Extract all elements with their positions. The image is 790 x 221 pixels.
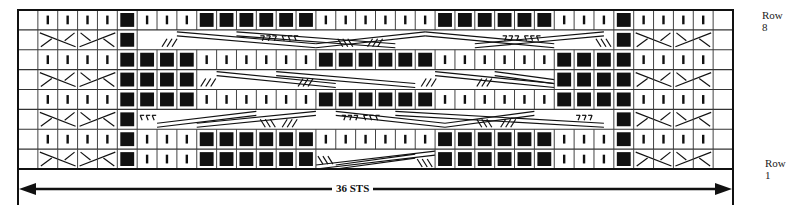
- knit-bar-icon: [642, 135, 644, 144]
- purl-square-icon: [557, 73, 571, 87]
- cell-r1-c14: [279, 152, 293, 166]
- cell-r6-c16: [319, 53, 333, 67]
- cell-r6-c32: [642, 55, 644, 64]
- purl-square-icon: [617, 13, 631, 27]
- purl-square-icon: [120, 132, 134, 146]
- purl-square-icon: [120, 13, 134, 27]
- stitch-count-label: 36 STS: [332, 182, 373, 194]
- cell-r8-c32: [642, 16, 644, 25]
- cell-r5-c30: [597, 73, 611, 87]
- purl-square-icon: [339, 53, 353, 67]
- cell-r4-c28: [557, 93, 571, 107]
- cell-r8-c16: [325, 16, 327, 25]
- knit-bar-icon: [702, 135, 704, 144]
- cell-r6-c33: [662, 55, 664, 64]
- cell-r5-c29: [577, 73, 591, 87]
- knit-bar-icon: [523, 55, 525, 64]
- cell-r6-c2: [47, 55, 49, 64]
- cell-r6-c9: [180, 53, 194, 67]
- knit-bar-icon: [424, 135, 426, 144]
- cell-r4-c33: [662, 95, 664, 104]
- knit-bar-icon: [563, 135, 565, 144]
- cell-r6-c23: [464, 55, 466, 64]
- cell-r1-c23: [458, 152, 472, 166]
- cell-r6-c10: [205, 55, 207, 64]
- knit-bar-icon: [305, 95, 307, 104]
- purl-square-icon: [617, 132, 631, 146]
- cell-r6-c18: [359, 53, 373, 67]
- cell-r2-c31: [617, 132, 631, 146]
- knit-bar-icon: [146, 135, 148, 144]
- cell-r2-c3: [66, 135, 68, 144]
- knit-bar-icon: [186, 16, 188, 25]
- cell-r4-c35: [702, 95, 704, 104]
- knit-bar-icon: [682, 135, 684, 144]
- cell-r6-c24: [484, 55, 486, 64]
- knit-bar-icon: [563, 155, 565, 164]
- cell-r5-c28: [557, 73, 571, 87]
- cell-r6-c25: [503, 55, 505, 64]
- cell-r4-c11: [225, 95, 227, 104]
- knit-bar-icon: [265, 55, 267, 64]
- purl-square-icon: [160, 53, 174, 67]
- purl-square-icon: [359, 53, 373, 67]
- knit-bar-icon: [702, 55, 704, 64]
- purl-square-icon: [537, 13, 551, 27]
- knit-bar-icon: [543, 55, 545, 64]
- knit-bar-icon: [166, 16, 168, 25]
- knit-bar-icon: [325, 16, 327, 25]
- knit-bar-icon: [186, 135, 188, 144]
- purl-square-icon: [239, 152, 253, 166]
- purl-square-icon: [418, 93, 432, 107]
- purl-square-icon: [259, 13, 273, 27]
- knit-bar-icon: [106, 16, 108, 25]
- purl-square-icon: [379, 93, 393, 107]
- purl-square-icon: [279, 13, 293, 27]
- knit-bar-icon: [86, 95, 88, 104]
- cell-r8-c26: [518, 13, 532, 27]
- cell-r8-c11: [220, 13, 234, 27]
- cell-r6-c13: [265, 55, 267, 64]
- cell-r2-c5: [106, 135, 108, 144]
- cell-r8-c14: [279, 13, 293, 27]
- knit-bar-icon: [47, 95, 49, 104]
- knit-bar-icon: [662, 16, 664, 25]
- cell-r4-c5: [106, 95, 108, 104]
- cell-r1-c12: [239, 152, 253, 166]
- purl-square-icon: [597, 53, 611, 67]
- knit-bar-icon: [404, 135, 406, 144]
- cell-r8-c21: [424, 16, 426, 25]
- cell-r7-c6: [120, 33, 134, 47]
- cell-r1-c24: [478, 152, 492, 166]
- purl-square-icon: [120, 152, 134, 166]
- cell-r4-c23: [464, 95, 466, 104]
- cell-r1-c7: [146, 155, 148, 164]
- cell-r4-c16: [319, 93, 333, 107]
- cell-r8-c12: [239, 13, 253, 27]
- purl-square-icon: [458, 132, 472, 146]
- cell-r2-c14: [279, 132, 293, 146]
- cell-r8-c3: [66, 16, 68, 25]
- cell-r5-c7: [140, 73, 154, 87]
- purl-square-icon: [398, 53, 412, 67]
- knit-bar-icon: [642, 16, 644, 25]
- knit-bar-icon: [146, 16, 148, 25]
- cell-r8-c28: [563, 16, 565, 25]
- cell-r2-c35: [702, 135, 704, 144]
- purl-square-icon: [200, 152, 214, 166]
- cell-r4-c4: [86, 95, 88, 104]
- cell-r2-c28: [563, 135, 565, 144]
- cell-r8-c34: [682, 16, 684, 25]
- purl-square-icon: [220, 152, 234, 166]
- cell-r8-c5: [106, 16, 108, 25]
- knit-bar-icon: [662, 135, 664, 144]
- cell-r4-c12: [245, 95, 247, 104]
- knit-bar-icon: [106, 95, 108, 104]
- cell-r4-c10: [205, 95, 207, 104]
- knit-bar-icon: [563, 16, 565, 25]
- cell-r6-c26: [523, 55, 525, 64]
- cell-r1-c10: [200, 152, 214, 166]
- cell-r2-c26: [518, 132, 532, 146]
- row-label-top: Row 8: [762, 9, 790, 33]
- purl-square-icon: [478, 152, 492, 166]
